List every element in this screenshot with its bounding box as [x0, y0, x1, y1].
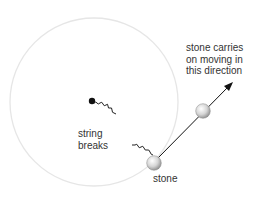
- direction-label-line-2: on moving in: [186, 54, 243, 66]
- direction-label: stone carries on moving in this directio…: [186, 42, 243, 77]
- string-breaks-label: string breaks: [78, 128, 108, 151]
- stone-later-position: [196, 104, 211, 119]
- string-breaks-line-2: breaks: [78, 140, 108, 152]
- stone-label: stone: [153, 173, 177, 185]
- direction-label-line-3: this direction: [186, 65, 243, 77]
- stone-label-text: stone: [153, 173, 177, 185]
- broken-string-stone: [132, 144, 153, 155]
- direction-arrow: [157, 86, 229, 159]
- direction-label-line-1: stone carries: [186, 42, 243, 54]
- diagram-canvas: [0, 0, 254, 204]
- broken-string-pivot: [94, 102, 116, 114]
- string-breaks-line-1: string: [78, 128, 108, 140]
- stone-at-break: [147, 156, 162, 171]
